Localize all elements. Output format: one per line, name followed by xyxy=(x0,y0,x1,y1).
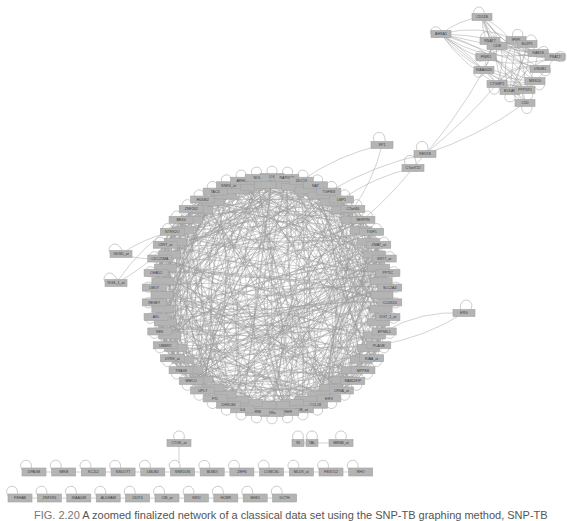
gene-node[interactable]: TGFB3I xyxy=(317,188,341,195)
gene-node[interactable] xyxy=(254,182,276,189)
gene-node[interactable]: ALDHAM xyxy=(96,494,120,502)
node-label: CTGK_at xyxy=(172,441,187,445)
gene-node[interactable]: SNRDUN xyxy=(171,468,195,476)
gene-node[interactable]: ERG xyxy=(453,310,475,317)
gene-node[interactable]: C1D xyxy=(515,100,535,107)
gene-node[interactable]: SERPIN xyxy=(351,216,375,223)
gene-node[interactable]: FBXO12 xyxy=(319,468,343,476)
gene-node[interactable]: KIAA_at xyxy=(360,355,384,362)
gene-node[interactable]: AXL xyxy=(144,314,168,321)
gene-node[interactable]: NOL xyxy=(245,174,269,181)
gene-node[interactable]: CR97_at xyxy=(153,241,177,248)
gene-node[interactable] xyxy=(151,292,173,299)
gene-node[interactable]: BHS1 xyxy=(243,494,267,502)
gene-node[interactable]: COMCSL xyxy=(260,468,284,476)
gene-node[interactable]: KCJ12 xyxy=(81,468,105,476)
gene-node[interactable]: RAB11FIP xyxy=(341,378,365,385)
gene-node[interactable]: FTL xyxy=(203,395,227,402)
gene-node[interactable]: EIF3 xyxy=(317,395,341,402)
gene-node[interactable] xyxy=(152,305,174,312)
gene-node[interactable]: RESET xyxy=(142,299,166,306)
gene-node[interactable]: DDIT4 xyxy=(126,494,150,502)
gene-node[interactable]: PPTIC xyxy=(376,269,400,276)
gene-node[interactable]: BLMDI xyxy=(200,468,224,476)
node-label: TGIF1 xyxy=(367,230,377,234)
gene-node[interactable]: IMKB xyxy=(52,468,76,476)
gene-node[interactable]: FNIR1 xyxy=(476,54,496,61)
gene-node[interactable]: REV18 xyxy=(414,151,436,158)
gene-node[interactable]: MMCO xyxy=(179,378,203,385)
gene-node[interactable]: NTRK2O xyxy=(160,228,184,235)
gene-node[interactable]: CDB xyxy=(487,43,507,50)
gene-node[interactable]: LMP1 xyxy=(329,196,353,203)
gene-node[interactable]: ZMAT_at xyxy=(367,241,391,248)
gene-node[interactable]: DHXLB4 xyxy=(217,401,241,408)
gene-node[interactable]: ZEFN xyxy=(230,468,254,476)
gene-node[interactable]: CD51B xyxy=(472,14,492,21)
gene-node[interactable]: UMBR2 xyxy=(153,342,177,349)
gene-node[interactable]: HCMR xyxy=(214,494,238,502)
gene-node[interactable]: DGT_1_at xyxy=(376,314,400,321)
gene-node[interactable]: HDDB2 xyxy=(191,196,215,203)
gene-node[interactable] xyxy=(370,278,392,285)
gene-node[interactable]: UPL7 xyxy=(191,387,215,394)
node-label: SNRDUN xyxy=(175,470,191,474)
gene-node[interactable]: CHAD2 xyxy=(144,269,168,276)
gene-node[interactable]: NSUO7T xyxy=(111,468,135,476)
gene-node[interactable]: PLAUB xyxy=(367,342,391,349)
gene-node[interactable]: NR1I xyxy=(184,494,208,502)
gene-node[interactable]: TAL xyxy=(306,440,318,447)
gene-node[interactable]: MSS10 xyxy=(525,78,545,85)
gene-node[interactable]: RGS_1_at xyxy=(105,280,127,287)
interaction-edge xyxy=(425,103,525,154)
gene-node[interactable]: C7orf40 xyxy=(341,205,365,212)
node-label: PPTIC xyxy=(383,271,394,275)
gene-node[interactable] xyxy=(152,278,174,285)
gene-node[interactable]: MPPS8 xyxy=(351,367,375,374)
gene-node[interactable]: TRAX8 xyxy=(169,367,193,374)
gene-node[interactable]: AHSA1 xyxy=(431,31,451,38)
figure-caption: FIG. 2.20 A zoomed finalized network of … xyxy=(34,509,567,521)
gene-node[interactable]: DPAGB xyxy=(22,468,46,476)
gene-node[interactable]: RHO xyxy=(349,468,373,476)
gene-node[interactable]: CIB_at xyxy=(155,494,179,502)
gene-node[interactable]: PSAT2 xyxy=(545,54,565,61)
gene-node[interactable]: CDC25MA xyxy=(148,255,172,262)
gene-node[interactable]: TGIF1 xyxy=(360,228,384,235)
gene-node[interactable]: SLC2A4 xyxy=(378,284,402,291)
gene-node[interactable] xyxy=(371,292,393,299)
gene-node[interactable]: MBNB_at xyxy=(329,440,353,447)
gene-node[interactable]: CTGBP2 xyxy=(487,81,507,88)
gene-node[interactable]: FSHAB xyxy=(8,494,32,502)
node-label: REV18 xyxy=(419,152,430,156)
gene-node[interactable]: NAT xyxy=(303,182,327,189)
gene-node[interactable]: NEK xyxy=(148,328,172,335)
gene-node[interactable]: LMLBD xyxy=(141,468,165,476)
node-label: FBXO12 xyxy=(324,470,338,474)
gene-node[interactable]: CRNA_at xyxy=(329,387,353,394)
gene-node[interactable]: KIAA0020 xyxy=(474,67,494,74)
gene-node[interactable]: DCTH xyxy=(273,494,297,502)
gene-node[interactable]: IN xyxy=(292,440,304,447)
gene-node[interactable]: LMO7 xyxy=(142,284,166,291)
gene-node[interactable]: SUZP1 xyxy=(517,41,537,48)
gene-node[interactable]: DYRK_at xyxy=(160,355,184,362)
gene-node[interactable]: CTGK_at xyxy=(167,440,191,447)
gene-node[interactable]: ZNF1R6 xyxy=(37,494,61,502)
gene-node[interactable]: PPP1R1 xyxy=(515,87,535,94)
gene-node[interactable]: UNGB1 xyxy=(530,66,550,73)
gene-node[interactable]: KIAA038 xyxy=(67,494,91,502)
gene-node[interactable]: ZNF262 xyxy=(179,205,203,212)
figure-caption-text: A zoomed finalized network of a classica… xyxy=(82,509,547,521)
gene-node[interactable] xyxy=(370,305,392,312)
gene-node[interactable]: CLDN10 xyxy=(378,299,402,306)
gene-node[interactable]: C7orf722 xyxy=(402,165,424,172)
gene-node[interactable]: GDSD_at xyxy=(110,251,132,258)
node-label: COMCSL xyxy=(264,470,279,474)
gene-node[interactable]: EPS8L1 xyxy=(372,328,396,335)
gene-node[interactable]: TAC3 xyxy=(203,188,227,195)
gene-node[interactable]: SP1 xyxy=(371,142,393,149)
gene-node[interactable]: KRT7_at xyxy=(372,255,396,262)
gene-node[interactable]: BEX4 xyxy=(169,216,193,223)
gene-node[interactable]: MLDK_at xyxy=(289,468,313,476)
